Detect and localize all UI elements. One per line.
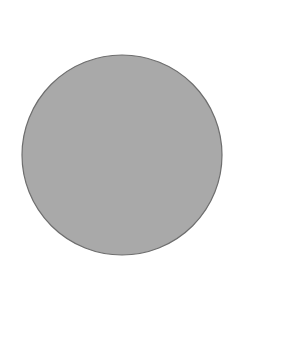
agar-plate bbox=[22, 55, 222, 255]
disk-diffusion-figure bbox=[0, 0, 285, 338]
figure-canvas bbox=[0, 0, 285, 338]
